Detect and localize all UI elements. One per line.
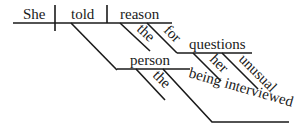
sentence-diagram: She told reason the for questions her un… (0, 0, 297, 133)
subject-word: She (23, 6, 46, 22)
object-modifier-word: the (134, 20, 159, 44)
preposition-word: for (161, 22, 185, 46)
object-word: reason (120, 6, 160, 22)
prep-object-word: questions (189, 36, 246, 52)
indirect-object-diagonal (71, 23, 117, 70)
participle-word: being interviewed (187, 65, 296, 110)
verb-word: told (71, 6, 95, 22)
indirect-object-word: person (130, 52, 170, 68)
